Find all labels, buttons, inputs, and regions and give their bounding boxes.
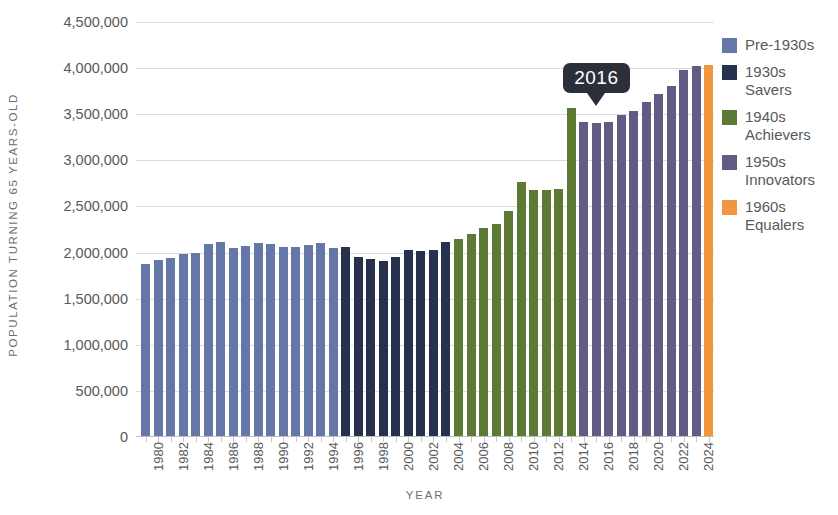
legend-item[interactable]: 1940s Achievers	[722, 108, 838, 144]
x-tick-label: 2012	[551, 442, 566, 471]
bar[interactable]	[542, 190, 551, 437]
bar[interactable]	[529, 190, 538, 437]
bar[interactable]	[179, 254, 188, 437]
legend: Pre-1930s1930s Savers1940s Achievers1950…	[722, 36, 838, 243]
legend-swatch	[722, 200, 737, 215]
legend-label: Pre-1930s	[745, 36, 814, 54]
x-tick-label: 1984	[201, 442, 216, 471]
x-tick-label: 1990	[276, 442, 291, 471]
bar[interactable]	[291, 247, 300, 437]
bar[interactable]	[579, 122, 588, 437]
bar[interactable]	[404, 250, 413, 437]
x-tick-label: 1998	[376, 442, 391, 471]
x-tick-label: 2000	[401, 442, 416, 471]
legend-label: 1930s Savers	[745, 63, 792, 99]
bar[interactable]	[567, 108, 576, 437]
bar[interactable]	[241, 246, 250, 437]
bar[interactable]	[254, 243, 263, 437]
bar[interactable]	[629, 111, 638, 437]
bar[interactable]	[229, 248, 238, 437]
legend-label: 1960s Equalers	[745, 198, 804, 234]
x-tick-label: 2020	[651, 442, 666, 471]
y-axis-title: POPULATION TURNING 65 YEARS-OLD	[0, 0, 26, 450]
x-tick-label: 1980	[151, 442, 166, 471]
bar[interactable]	[617, 115, 626, 437]
legend-label: 1950s Innovators	[745, 153, 815, 189]
bar[interactable]	[441, 242, 450, 437]
bar[interactable]	[517, 182, 526, 437]
x-tick-label: 2022	[676, 442, 691, 471]
legend-item[interactable]: 1950s Innovators	[722, 153, 838, 189]
x-tick-label: 2018	[626, 442, 641, 471]
bar[interactable]	[592, 123, 601, 437]
bar[interactable]	[467, 234, 476, 437]
bar[interactable]	[341, 247, 350, 437]
gridline	[136, 206, 714, 207]
bar[interactable]	[416, 251, 425, 437]
x-tick-label: 1992	[301, 442, 316, 471]
y-axis-title-text: POPULATION TURNING 65 YEARS-OLD	[7, 93, 19, 357]
y-tick-label: 1,000,000	[63, 337, 128, 353]
bar[interactable]	[504, 211, 513, 437]
bar[interactable]	[204, 244, 213, 437]
bar[interactable]	[642, 102, 651, 437]
legend-item[interactable]: Pre-1930s	[722, 36, 838, 54]
x-tick-label: 1988	[251, 442, 266, 471]
annotation-bubble-label: 2016	[563, 63, 629, 93]
bar[interactable]	[366, 259, 375, 437]
bar[interactable]	[379, 261, 388, 437]
bar[interactable]	[667, 86, 676, 437]
legend-swatch	[722, 65, 737, 80]
bar[interactable]	[141, 264, 150, 437]
legend-item[interactable]: 1930s Savers	[722, 63, 838, 99]
gridline	[136, 160, 714, 161]
bar[interactable]	[329, 248, 338, 437]
bar[interactable]	[479, 228, 488, 437]
bar[interactable]	[692, 66, 701, 437]
x-tick-label: 1986	[226, 442, 241, 471]
x-axis-title: YEAR	[136, 489, 714, 501]
bar[interactable]	[354, 257, 363, 437]
gridline	[136, 22, 714, 23]
bar[interactable]	[316, 243, 325, 437]
bar[interactable]	[391, 257, 400, 437]
y-tick-label: 2,000,000	[63, 245, 128, 261]
legend-swatch	[722, 155, 737, 170]
x-axis-baseline	[136, 436, 714, 437]
bar[interactable]	[654, 94, 663, 437]
y-tick-label: 500,000	[76, 383, 128, 399]
bar[interactable]	[492, 224, 501, 437]
legend-swatch	[722, 110, 737, 125]
bar[interactable]	[266, 244, 275, 437]
bar[interactable]	[166, 258, 175, 437]
x-tick-label: 2016	[601, 442, 616, 471]
bar[interactable]	[216, 242, 225, 437]
annotation-pointer-icon	[587, 93, 605, 106]
bar[interactable]	[191, 253, 200, 437]
y-tick-label: 0	[120, 429, 128, 445]
legend-item[interactable]: 1960s Equalers	[722, 198, 838, 234]
x-tick-label: 1994	[326, 442, 341, 471]
x-tick-label: 2002	[426, 442, 441, 471]
bar[interactable]	[554, 189, 563, 437]
y-axis-tick-labels: 0500,0001,000,0001,500,0002,000,0002,500…	[26, 0, 134, 450]
bar[interactable]	[454, 239, 463, 437]
x-tick-label: 1982	[176, 442, 191, 471]
bar[interactable]	[704, 65, 713, 437]
population-turning-65-bar-chart: POPULATION TURNING 65 YEARS-OLD 0500,000…	[0, 0, 838, 515]
bar[interactable]	[154, 260, 163, 437]
y-tick-label: 2,500,000	[63, 198, 128, 214]
legend-label: 1940s Achievers	[745, 108, 811, 144]
bar[interactable]	[279, 247, 288, 437]
bar[interactable]	[679, 70, 688, 437]
bar[interactable]	[304, 245, 313, 437]
x-axis-tick-labels: 1980198219841986198819901992199419961998…	[136, 442, 714, 488]
legend-swatch	[722, 38, 737, 53]
y-tick-label: 3,000,000	[63, 152, 128, 168]
x-tick-label: 2014	[576, 442, 591, 471]
x-tick-label: 2006	[476, 442, 491, 471]
bar[interactable]	[604, 122, 613, 437]
bar[interactable]	[429, 250, 438, 437]
y-tick-label: 3,500,000	[63, 106, 128, 122]
y-tick-label: 4,000,000	[63, 60, 128, 76]
